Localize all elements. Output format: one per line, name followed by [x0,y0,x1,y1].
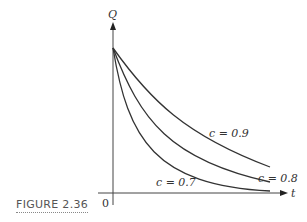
curve-c-0.9 [113,48,270,167]
curve-c-0.8 [113,48,270,182]
label-c-0.7: c = 0.7 [156,176,196,189]
figure-caption: FIGURE 2.36 [16,198,88,213]
label-c-0.9: c = 0.9 [209,127,249,140]
t-axis-label: t [291,187,296,200]
q-axis-label: Q [108,8,117,21]
decay-chart: Q t 0 c = 0.9 c = 0.8 c = 0.7 [0,0,307,222]
curve-c-0.7 [113,48,270,191]
label-c-0.8: c = 0.8 [258,172,298,185]
origin-label: 0 [102,197,109,210]
